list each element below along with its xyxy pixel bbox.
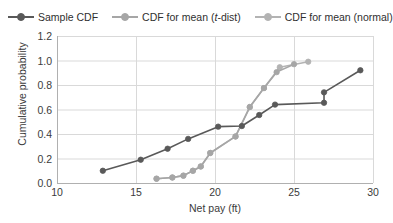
x-tick-label: 15 (116, 186, 156, 198)
data-point (208, 150, 213, 155)
data-point (198, 164, 203, 169)
x-tick-label: 10 (37, 186, 77, 198)
legend-marker-sample-cdf (8, 12, 34, 22)
data-point (291, 61, 296, 66)
data-point (190, 168, 195, 173)
x-tick-label: 20 (195, 186, 235, 198)
y-tick-label: 1.0 (24, 55, 52, 67)
x-tick-label: 30 (353, 186, 393, 198)
series-line (157, 64, 294, 179)
data-point (358, 68, 363, 73)
y-tick-label: 0.2 (24, 153, 52, 165)
data-point (272, 102, 277, 107)
legend-label-cdf-mean-normal: CDF for mean (normal) (285, 11, 393, 23)
y-axis-label: Cumulative probability (16, 24, 28, 164)
chart-legend: Sample CDF CDF for mean (t-dist) CDF for… (0, 8, 390, 26)
legend-item-sample-cdf: Sample CDF (8, 11, 98, 23)
x-tick-label: 25 (274, 186, 314, 198)
x-axis-ticks: 1015202530 (0, 186, 390, 202)
legend-label-cdf-mean-tdist: CDF for mean (t-dist) (142, 11, 241, 23)
legend-marker-cdf-mean-tdist (112, 12, 138, 22)
legend-dot-icon (121, 13, 129, 21)
data-point (233, 134, 238, 139)
data-point (274, 69, 279, 74)
data-point (215, 124, 220, 129)
y-tick-label: 0.8 (24, 79, 52, 91)
data-point (257, 112, 262, 117)
plot-area-wrapper: 0.00.20.40.60.81.01.2 1015202530 Cumulat… (0, 26, 390, 223)
data-point (181, 173, 186, 178)
data-point (185, 136, 190, 141)
y-tick-label: 0.6 (24, 104, 52, 116)
series-sample-cdf (100, 68, 363, 174)
x-axis-label: Net pay (ft) (57, 202, 373, 214)
series-cdf-for-mean-t-dist (154, 61, 297, 181)
legend-dot-icon (17, 13, 25, 21)
legend-dot-icon (264, 13, 272, 21)
data-point (100, 168, 105, 173)
data-point (154, 176, 159, 181)
data-point (321, 100, 326, 105)
data-point (247, 104, 252, 109)
y-tick-label: 0.4 (24, 128, 52, 140)
data-point (306, 59, 311, 64)
data-point (138, 157, 143, 162)
legend-marker-cdf-mean-normal (255, 12, 281, 22)
legend-label-sample-cdf: Sample CDF (38, 11, 98, 23)
legend-item-cdf-mean-tdist: CDF for mean (t-dist) (112, 11, 241, 23)
y-tick-label: 1.2 (24, 30, 52, 42)
data-point (239, 123, 244, 128)
data-point (261, 85, 266, 90)
series-line (157, 62, 309, 179)
data-point (165, 146, 170, 151)
data-point (321, 90, 326, 95)
data-point (170, 175, 175, 180)
series-cdf-for-mean-normal (154, 59, 311, 181)
legend-item-cdf-mean-normal: CDF for mean (normal) (255, 11, 393, 23)
